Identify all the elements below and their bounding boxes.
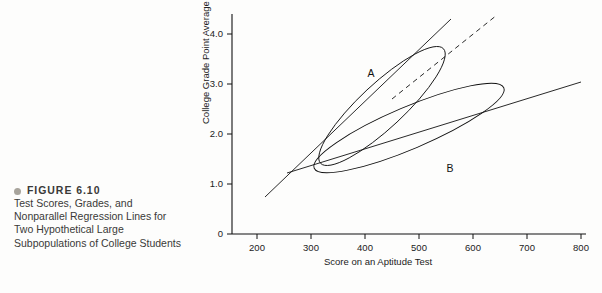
figure-caption: FIGURE 6.10 Test Scores, Grades, and Non… bbox=[14, 184, 184, 250]
x-tick-label: 800 bbox=[573, 242, 589, 253]
ellipse-subpopulation-a bbox=[306, 33, 459, 180]
y-axis-label: College Grade Point Average bbox=[200, 1, 211, 124]
regression-line-a bbox=[265, 19, 451, 197]
annotation-a: A bbox=[367, 67, 374, 79]
chart-container: 0 1.0 2.0 3.0 4.0 200 300 400 500 600 70… bbox=[196, 6, 592, 274]
chart-axes bbox=[227, 14, 586, 239]
x-tick-label: 700 bbox=[519, 242, 535, 253]
bullet-icon bbox=[14, 188, 21, 195]
x-tick-label: 400 bbox=[357, 242, 373, 253]
y-tick-label: 3.0 bbox=[210, 78, 223, 89]
x-tick-label: 600 bbox=[465, 242, 481, 253]
y-tick-label: 0 bbox=[218, 228, 223, 239]
y-tick-label: 4.0 bbox=[210, 28, 223, 39]
y-tick-labels: 0 1.0 2.0 3.0 4.0 bbox=[210, 28, 223, 239]
x-axis-label: Score on an Aptitude Test bbox=[324, 256, 432, 267]
figure-caption-header: FIGURE 6.10 bbox=[14, 184, 184, 196]
figure-page: FIGURE 6.10 Test Scores, Grades, and Non… bbox=[0, 0, 602, 293]
figure-label: FIGURE 6.10 bbox=[27, 184, 100, 196]
y-tick-label: 1.0 bbox=[210, 178, 223, 189]
annotation-b: B bbox=[446, 162, 453, 174]
regression-line-a-extension bbox=[392, 15, 497, 99]
x-tick-label: 300 bbox=[303, 242, 319, 253]
chart-svg: 0 1.0 2.0 3.0 4.0 200 300 400 500 600 70… bbox=[196, 6, 592, 274]
figure-caption-text: Test Scores, Grades, and Nonparallel Reg… bbox=[14, 197, 184, 250]
x-tick-label: 200 bbox=[249, 242, 265, 253]
x-tick-label: 500 bbox=[411, 242, 427, 253]
x-tick-labels: 200 300 400 500 600 700 800 bbox=[249, 242, 589, 253]
y-tick-label: 2.0 bbox=[210, 128, 223, 139]
